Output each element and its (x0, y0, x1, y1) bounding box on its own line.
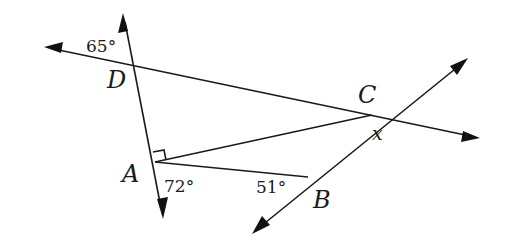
arrow-upright-icon (450, 58, 468, 75)
angle-label-c: x (372, 122, 383, 144)
arrow-down-icon (157, 197, 168, 219)
point-label-d: D (106, 66, 126, 94)
arrow-downleft-icon (252, 216, 270, 234)
point-label-a: A (120, 160, 139, 188)
angle-label-b: 51° (256, 177, 286, 197)
angle-label-d: 65° (86, 36, 116, 56)
arrow-left-icon (44, 42, 63, 53)
arrow-up-icon (118, 13, 128, 33)
segment-ac (155, 115, 372, 162)
line-da (118, 13, 168, 219)
arrow-right-icon (461, 131, 480, 142)
point-label-c: C (358, 81, 376, 109)
right-angle-marker (153, 150, 166, 160)
angle-label-a: 72° (164, 176, 194, 196)
geometry-diagram: D A B C 65° 72° 51° x (0, 0, 507, 246)
segment-ab (155, 162, 308, 177)
point-label-b: B (312, 186, 331, 214)
